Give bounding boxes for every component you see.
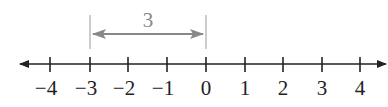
distance-label: 3 [143,8,154,32]
tick-label: 0 [201,76,212,100]
tick-label: 4 [355,76,366,100]
tick-label: −3 [75,76,97,100]
distance-annotation: 3 [90,8,206,49]
tick-label: 2 [278,76,289,100]
tick-label: −1 [152,76,174,100]
tick-label: −2 [113,76,135,100]
tick-labels: −4 −3 −2 −1 0 1 2 3 4 [35,76,366,100]
number-line-svg: −4 −3 −2 −1 0 1 2 3 4 3 [0,0,388,107]
tick-label: −4 [35,76,58,100]
number-line-diagram: −4 −3 −2 −1 0 1 2 3 4 3 [0,0,388,107]
tick-label: 3 [317,76,328,100]
tick-label: 1 [240,76,251,100]
